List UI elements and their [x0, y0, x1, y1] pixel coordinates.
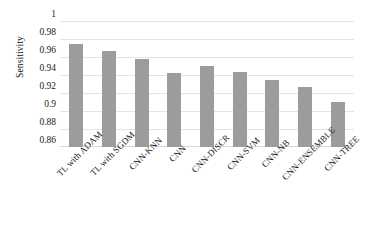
bar-chart-figure: Sensitivity 1 0.98 0.96 0.94 0.92 0.9 0.…: [0, 0, 367, 229]
x-label-slot: TL with ADAM: [60, 148, 93, 224]
bar[interactable]: [200, 66, 214, 147]
x-label-slot: CNN-DISCR: [191, 148, 224, 224]
bar-slot: [93, 21, 126, 147]
bar[interactable]: [331, 102, 345, 147]
bar-slot: [125, 21, 158, 147]
bar[interactable]: [298, 87, 312, 147]
bar-slot: [223, 21, 256, 147]
bar-slot: [158, 21, 191, 147]
bar[interactable]: [233, 72, 247, 147]
x-axis-tick-labels: TL with ADAM TL with SGDM CNN-KNN CNN CN…: [60, 148, 354, 224]
bar-series: [60, 21, 354, 147]
plot-area: [60, 21, 354, 147]
y-tick-label: 0.92: [39, 81, 56, 91]
bar-slot: [60, 21, 93, 147]
bar[interactable]: [69, 44, 83, 148]
y-tick-label: 0.98: [39, 27, 56, 37]
y-tick-label: 0.9: [44, 99, 56, 109]
y-tick-label: 0.94: [39, 63, 56, 73]
bar[interactable]: [102, 51, 116, 147]
y-tick-label: 0.88: [39, 117, 56, 127]
bar-slot: [191, 21, 224, 147]
bar[interactable]: [265, 80, 279, 148]
bar-slot: [256, 21, 289, 147]
y-tick-label: 1: [51, 9, 56, 19]
x-label-slot: CNN-ENSEMBLE: [289, 148, 322, 224]
x-label-slot: CNN-SVM: [223, 148, 256, 224]
y-tick-label: 0.86: [39, 135, 56, 145]
bar[interactable]: [135, 59, 149, 147]
bar[interactable]: [167, 73, 181, 147]
x-label-slot: TL with SGDM: [93, 148, 126, 224]
x-label-slot: CNN-TREE: [321, 148, 354, 224]
x-label-slot: CNN: [158, 148, 191, 224]
y-tick-label: 0.96: [39, 45, 56, 55]
y-axis-tick-labels: 1 0.98 0.96 0.94 0.92 0.9 0.88 0.86: [18, 14, 56, 148]
x-label-slot: CNN-NB: [256, 148, 289, 224]
bar-slot: [289, 21, 322, 147]
x-label-slot: CNN-KNN: [125, 148, 158, 224]
plot-wrapper: Sensitivity 1 0.98 0.96 0.94 0.92 0.9 0.…: [0, 0, 367, 229]
